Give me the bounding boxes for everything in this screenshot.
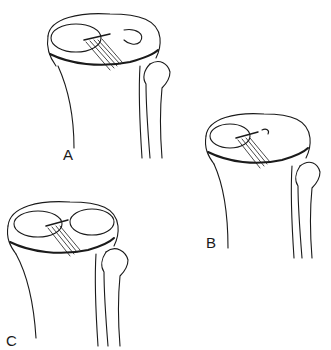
tibia-drawing-a (40, 8, 180, 158)
figure-label-c: C (6, 332, 17, 349)
figure-label-a: A (63, 146, 73, 163)
tibia-drawing-c (4, 196, 144, 346)
figure-a (40, 8, 180, 158)
figure-label-b: B (206, 234, 216, 251)
figure-b (200, 108, 330, 258)
tibia-drawing-b (200, 108, 330, 258)
figure-c (4, 196, 144, 346)
